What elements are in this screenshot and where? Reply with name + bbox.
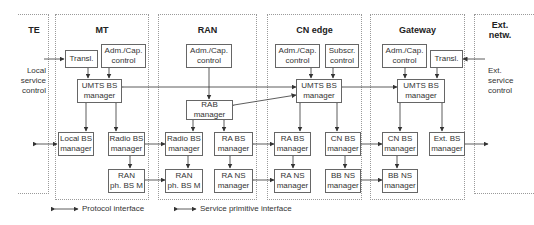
gw-adm-cap-control-box: Adm./Cap. control [382,44,427,68]
ran-rab-manager-box: RAB manager [186,100,233,120]
ran-radio-bs-manager-box: Radio BS manager [165,132,203,156]
mt-transl-box: Transl. [65,50,98,68]
cn-ra-bs-manager-box: RA BS manager [274,132,311,156]
ran-adm-cap-control-box: Adm./Cap. control [186,44,232,68]
gw-umts-bs-manager-box: UMTS BS manager [397,79,445,103]
ran-ra-ns-manager-box: RA NS manager [214,169,253,193]
legend-service-primitive-interface: Service primitive interface [200,204,292,214]
cn-cn-bs-manager-box: CN BS manager [325,132,361,156]
gw-bb-ns-manager-box: BB NS manager [382,169,418,193]
gw-ext-bs-manager-box: Ext. BS manager [429,132,465,156]
legend-protocol-interface: Protocol interface [82,204,144,214]
cn-bb-ns-manager-box: BB NS manager [325,169,361,193]
mt-ran-ph-bs-m-box: RAN ph. BS M [108,169,145,193]
mt-radio-bs-manager-box: Radio BS manager [108,132,145,156]
cn-adm-cap-control-box: Adm./Cap. control [275,44,320,68]
gw-cn-bs-manager-box: CN BS manager [382,132,418,156]
mt-umts-bs-manager-box: UMTS BS manager [77,79,122,103]
mt-local-bs-manager-box: Local BS manager [58,132,94,156]
mt-adm-cap-control-box: Adm./Cap. control [101,44,146,68]
cn-subscr-control-box: Subscr. control [325,44,359,68]
cn-umts-bs-manager-box: UMTS BS manager [296,79,342,103]
gw-transl-box: Transl. [430,50,463,68]
cn-ra-ns-manager-box: RA NS manager [274,169,311,193]
ran-ra-bs-manager-box: RA BS manager [214,132,253,156]
ran-ran-ph-bs-m-box: RAN ph. BS M [165,169,203,193]
